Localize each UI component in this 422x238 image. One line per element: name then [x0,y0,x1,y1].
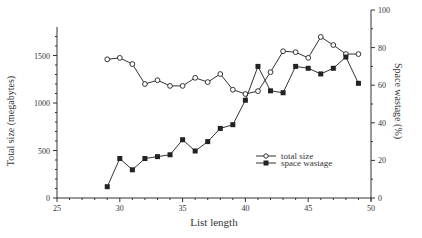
space-wastage-marker [168,152,173,157]
total-size-marker [293,50,298,55]
y2-tick-label: 80 [378,44,386,53]
x-axis-label: List length [190,216,238,228]
space-wastage-marker [318,71,323,76]
x-tick-label: 40 [241,204,249,213]
space-wastage-marker [343,55,348,60]
y2-tick-label: 40 [378,119,386,128]
total-size-marker [331,43,336,48]
space-wastage-marker [142,156,147,161]
total-size-marker [130,62,135,67]
total-size-marker [356,52,361,57]
space-wastage-marker [130,167,135,172]
y-tick-label: 0 [46,194,50,203]
y2-tick-label: 60 [378,81,386,90]
total-size-marker [205,80,210,85]
space-wastage-marker [155,154,160,159]
y-tick-label: 500 [38,147,50,156]
total-size-marker [193,75,198,80]
total-size-marker [155,78,160,83]
space-wastage-marker [117,156,122,161]
legend-circle-icon [264,154,268,158]
space-wastage-marker [331,66,336,71]
space-wastage-marker [281,90,286,95]
total-size-marker [318,35,323,40]
total-size-marker [180,84,185,89]
space-wastage-marker [105,184,110,189]
total-size-marker [218,72,223,77]
space-wastage-marker [255,64,260,69]
y-tick-label: 1500 [34,52,50,61]
legend: total sizespace wastage [256,151,332,168]
space-wastage-marker [293,64,298,69]
space-wastage-marker [356,81,361,86]
x-tick-label: 50 [367,204,375,213]
total-size-marker [268,70,273,75]
space-wastage-marker [230,122,235,127]
total-size-marker [230,87,235,92]
space-wastage-marker [205,139,210,144]
total-size-marker [256,89,261,94]
x-tick-label: 35 [179,204,187,213]
y2-tick-label: 0 [378,194,382,203]
total-size-marker [306,55,311,60]
space-wastage-marker [180,137,185,142]
total-size-marker [117,55,122,60]
y2-tick-label: 20 [378,156,386,165]
legend-square-icon [264,161,269,166]
x-tick-label: 45 [304,204,312,213]
space-wastage-marker [243,98,248,103]
legend-label: space wastage [281,158,332,168]
space-wastage-marker [193,149,198,154]
y2-tick-label: 100 [378,6,390,15]
y-axis-label: Total size (megabytes) [5,76,17,166]
space-wastage-marker [218,126,223,131]
total-size-marker [168,84,173,89]
x-tick-label: 30 [116,204,124,213]
space-wastage-marker [306,66,311,71]
x-tick-label: 25 [53,204,61,213]
total-size-marker [105,57,110,62]
dual-axis-line-chart: 050010001500253035404550020406080100 tot… [0,0,422,238]
y2-axis-label: Space wastage (%) [392,63,404,139]
total-size-marker [281,49,286,54]
y-tick-label: 1000 [34,99,50,108]
total-size-marker [143,82,148,87]
axes: 050010001500253035404550020406080100 [34,6,390,213]
space-wastage-marker [268,88,273,93]
